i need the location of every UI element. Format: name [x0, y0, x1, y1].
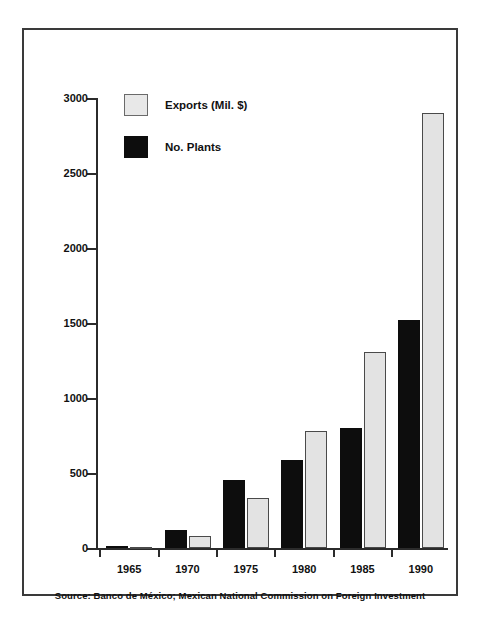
y-tick-label-2500: 2500: [36, 166, 88, 180]
y-tick-label-2000: 2000: [36, 241, 88, 255]
y-tick-2000: [87, 248, 96, 250]
x-tick-1975: [216, 548, 218, 557]
figure: 050010001500200025003000 196519701975198…: [0, 0, 479, 630]
bar-exports-1965: [130, 547, 152, 549]
x-tick-1985: [333, 548, 335, 557]
bar-exports-1975: [247, 498, 269, 548]
legend-item-plants: No. Plants: [124, 136, 221, 158]
x-tick-1990: [391, 548, 393, 557]
y-tick-label-0: 0: [36, 541, 88, 555]
bar-plants-1990: [398, 320, 420, 548]
bar-exports-1980: [305, 431, 327, 548]
bar-exports-1990: [422, 113, 444, 548]
y-tick-0: [87, 548, 96, 550]
legend-item-exports: Exports (Mil. $): [124, 94, 247, 116]
y-tick-1000: [87, 398, 96, 400]
y-tick-label-3000: 3000: [36, 91, 88, 105]
bar-plants-1985: [340, 428, 362, 548]
bar-exports-1970: [189, 536, 211, 548]
x-tick-1965: [99, 548, 101, 557]
y-axis-line: [96, 98, 98, 550]
bar-plants-1980: [281, 460, 303, 549]
plot-area: 050010001500200025003000 196519701975198…: [96, 98, 446, 548]
bar-exports-1985: [364, 352, 386, 549]
y-tick-label-1500: 1500: [36, 316, 88, 330]
bar-plants-1970: [165, 530, 187, 548]
y-tick-2500: [87, 173, 96, 175]
chart-frame: 050010001500200025003000 196519701975198…: [22, 28, 458, 596]
legend-label-exports: Exports (Mil. $): [165, 99, 247, 111]
y-tick-500: [87, 473, 96, 475]
y-tick-label-1000: 1000: [36, 391, 88, 405]
bar-plants-1975: [223, 480, 245, 548]
y-tick-3000: [87, 98, 96, 100]
y-tick-1500: [87, 323, 96, 325]
x-tick-1970: [158, 548, 160, 557]
source-note: Source: Banco de México; Mexican Nationa…: [24, 590, 456, 601]
legend-label-plants: No. Plants: [165, 141, 221, 153]
legend-swatch-exports: [124, 94, 148, 116]
legend-swatch-plants: [124, 136, 148, 158]
bar-plants-1965: [106, 546, 128, 548]
x-label-1990: 1990: [386, 562, 456, 576]
y-tick-label-500: 500: [36, 466, 88, 480]
x-tick-1980: [274, 548, 276, 557]
